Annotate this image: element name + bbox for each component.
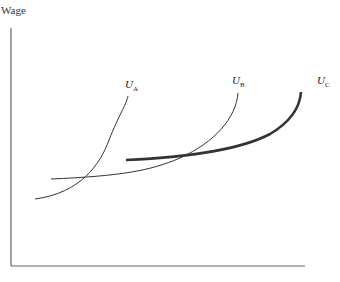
indifference-curve-diagram: [0, 0, 340, 282]
curve-label-uc: UC: [317, 74, 330, 89]
curve-label-ub: UB: [232, 74, 245, 89]
curve-label-ua: UA: [125, 78, 138, 93]
curve-ub: [51, 93, 238, 179]
curve-ua: [35, 96, 128, 199]
curve-uc: [126, 92, 301, 160]
